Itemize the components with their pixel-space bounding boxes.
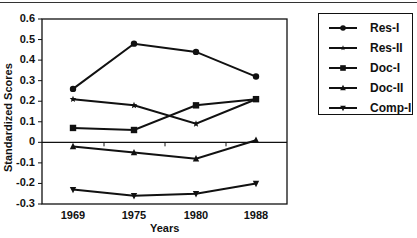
legend-swatch-icon <box>327 38 363 58</box>
star-marker-icon <box>340 45 345 50</box>
series-res-ii <box>70 96 260 127</box>
circle-marker-icon <box>131 40 137 46</box>
y-tick-label: -0.2 <box>5 176 35 188</box>
x-axis-label: Years <box>150 222 179 234</box>
legend: Res-IRes-IIDoc-IDoc-IIComp-I <box>318 13 413 115</box>
legend-swatch-icon <box>327 58 363 78</box>
series-line <box>73 183 256 195</box>
legend-label: Res-II <box>370 41 403 55</box>
legend-label: Doc-I <box>370 61 400 75</box>
square-marker-icon <box>193 102 199 108</box>
star-marker-icon <box>70 96 77 102</box>
star-marker-icon <box>193 120 200 126</box>
y-tick-label: 0.6 <box>5 12 35 24</box>
x-tick-label: 1988 <box>236 209 276 221</box>
legend-item-res-i: Res-I <box>319 18 414 38</box>
legend-label: Res-I <box>370 21 399 35</box>
legend-swatch-icon <box>327 98 363 118</box>
circle-marker-icon <box>70 86 76 92</box>
x-tick-label: 1980 <box>176 209 216 221</box>
legend-label: Doc-II <box>370 81 403 95</box>
legend-item-comp-i: Comp-I <box>319 98 414 118</box>
series-comp-i <box>70 181 259 200</box>
circle-marker-icon <box>253 73 259 79</box>
x-tick-label: 1975 <box>114 209 154 221</box>
legend-swatch-icon <box>327 78 363 98</box>
legend-swatch-icon <box>327 18 363 38</box>
square-marker-icon <box>253 96 259 102</box>
square-marker-icon <box>131 127 137 133</box>
legend-item-res-ii: Res-II <box>319 38 414 58</box>
legend-label: Comp-I <box>370 101 411 115</box>
series-res-i <box>70 40 259 92</box>
series-doc-ii <box>70 137 259 162</box>
y-tick-label: -0.3 <box>5 197 35 209</box>
legend-item-doc-i: Doc-I <box>319 58 414 78</box>
circle-marker-icon <box>193 49 199 55</box>
y-tick-label: 0.5 <box>5 33 35 45</box>
series-line <box>73 44 256 89</box>
legend-item-doc-ii: Doc-II <box>319 78 414 98</box>
circle-marker-icon <box>340 25 346 31</box>
triangle-up-marker-icon <box>253 137 259 143</box>
star-marker-icon <box>131 102 138 108</box>
square-marker-icon <box>340 65 346 71</box>
y-axis-label: Standardized Scores <box>2 63 14 172</box>
x-tick-label: 1969 <box>53 209 93 221</box>
square-marker-icon <box>70 125 76 131</box>
